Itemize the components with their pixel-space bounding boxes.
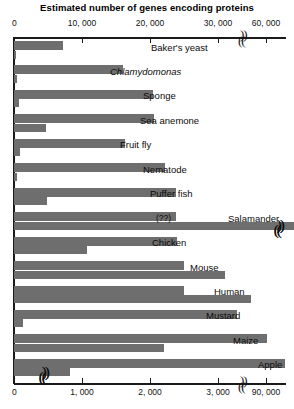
axis-tick-label: 0 <box>12 18 17 28</box>
bar-category-label: Nematode <box>143 164 187 175</box>
bar-category-label: Sponge <box>143 90 176 101</box>
axis-tick-label: 2, 000 <box>138 387 162 397</box>
genome-size-bar <box>14 75 17 83</box>
genome-size-bar <box>14 319 23 327</box>
gene-count-bar <box>14 286 184 295</box>
gene-count-bar <box>14 359 285 368</box>
gene-count-bar <box>14 65 123 74</box>
genome-size-bar <box>14 173 17 181</box>
axis-tick-label: 60, 000 <box>252 18 280 28</box>
bar-value-annotation: (??) <box>156 213 171 223</box>
bar-category-label: Mustard <box>206 310 240 321</box>
gene-count-bar <box>14 90 153 99</box>
bar-category-label: Apple <box>258 359 282 370</box>
bar-category-label: Chlamydomonas <box>110 66 181 77</box>
genome-size-bar <box>14 124 46 132</box>
axis-tick <box>82 38 83 43</box>
gene-count-bar <box>14 212 176 221</box>
bar-category-label: Human <box>214 286 245 297</box>
genome-size-bar <box>14 148 20 156</box>
bar-category-label: Maize <box>233 335 258 346</box>
bar-category-label: Sea anemone <box>140 115 199 126</box>
bar-break-mark: (( <box>274 223 280 238</box>
bar-category-label: Fruit fly <box>120 139 151 150</box>
genome-size-bar <box>14 197 47 205</box>
gene-count-bar <box>14 310 237 319</box>
bar-category-label: Baker's yeast <box>151 42 208 53</box>
gene-count-bar <box>14 139 125 148</box>
gene-count-bar <box>14 41 63 50</box>
gene-count-bar <box>14 114 154 123</box>
axis-tick <box>218 378 219 383</box>
chart-title: Estimated number of genes encoding prote… <box>0 2 294 13</box>
axis-break-mark: (( <box>238 34 245 47</box>
gene-count-bar <box>14 261 184 270</box>
axis-tick <box>150 378 151 383</box>
axis-break-mark: (( <box>238 380 245 393</box>
axis-tick-label: 90, 000 <box>252 387 280 397</box>
axis-tick-label: 3, 000 <box>206 387 230 397</box>
bar-category-label: Puffer fish <box>150 188 193 199</box>
axis-tick-label: 1, 000 <box>70 387 94 397</box>
genome-size-bar <box>14 246 87 254</box>
bar-break-mark: (( <box>39 370 45 385</box>
axis-tick-label: 20, 000 <box>136 18 164 28</box>
gene-count-bar-chart: Estimated number of genes encoding prote… <box>0 0 294 409</box>
axis-tick-label: 30, 000 <box>204 18 232 28</box>
bar-category-label: Mouse <box>190 262 219 273</box>
bar-category-label: Chicken <box>152 237 186 248</box>
axis-tick-label: 10, 000 <box>68 18 96 28</box>
genome-size-bar <box>14 51 16 59</box>
gene-count-bar <box>14 334 267 343</box>
axis-tick-label: 0 <box>12 387 17 397</box>
axis-tick <box>266 38 267 43</box>
genome-size-bar <box>14 99 19 107</box>
bar-category-label: Salamander <box>228 213 279 224</box>
axis-tick <box>82 378 83 383</box>
axis-tick <box>266 378 267 383</box>
genome-size-bar <box>14 344 164 352</box>
axis-tick <box>218 38 219 43</box>
axis-tick <box>14 378 15 383</box>
